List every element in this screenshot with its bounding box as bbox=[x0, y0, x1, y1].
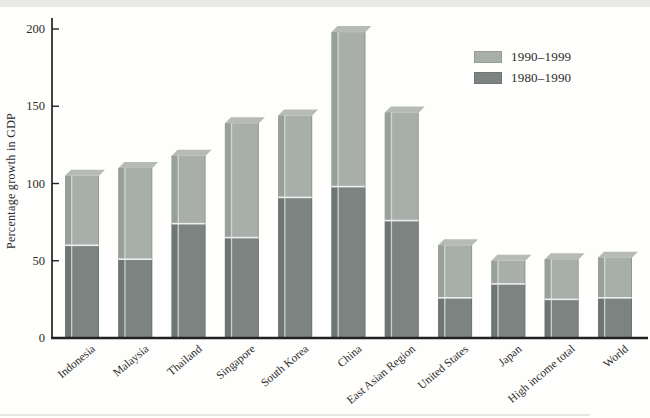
bar-malaysia-top-face bbox=[118, 162, 158, 168]
bar-east-asian-region-segment-separator bbox=[385, 220, 419, 222]
bar-japan-segment-separator bbox=[491, 283, 525, 285]
legend-label-1990-1999: 1990–1999 bbox=[511, 49, 571, 65]
x-tick-label-indonesia: Indonesia bbox=[55, 342, 97, 380]
bar-japan-top-face bbox=[491, 255, 531, 261]
bar-indonesia-side-light bbox=[65, 176, 71, 246]
bar-south-korea-edge-highlight bbox=[284, 116, 285, 338]
bar-world-segment-separator bbox=[598, 297, 632, 299]
bar-singapore-side-dark bbox=[225, 238, 231, 338]
bar-thailand-side-dark bbox=[172, 224, 178, 338]
bar-indonesia-side-dark bbox=[65, 245, 71, 338]
y-tick-label-0: 0 bbox=[39, 331, 45, 345]
bar-china-right-shade bbox=[365, 32, 366, 338]
bar-world-top-face bbox=[598, 252, 638, 258]
bar-east-asian-region-side-light bbox=[385, 112, 391, 220]
bar-china-side-light bbox=[332, 32, 338, 187]
bar-high-income-total-side-light bbox=[545, 259, 551, 299]
bar-singapore-side-light bbox=[225, 123, 231, 237]
bar-east-asian-region-edge-highlight bbox=[391, 112, 392, 338]
x-tick-label-south-korea: South Korea bbox=[258, 342, 310, 388]
bar-japan-side-light bbox=[491, 261, 497, 284]
legend-item-1980-1990: 1980–1990 bbox=[474, 70, 571, 86]
bar-japan-right-shade bbox=[524, 261, 525, 338]
bar-japan-edge-highlight bbox=[497, 261, 498, 338]
bar-malaysia-edge-highlight bbox=[124, 168, 125, 338]
x-tick-label-singapore: Singapore bbox=[214, 342, 258, 382]
legend-label-1980-1990: 1980–1990 bbox=[511, 70, 571, 86]
bar-thailand-right-shade bbox=[205, 156, 206, 338]
y-tick-label-50: 50 bbox=[33, 254, 46, 268]
bar-malaysia-segment-separator bbox=[118, 258, 152, 260]
y-tick-label-100: 100 bbox=[26, 177, 45, 191]
bar-high-income-total-top-face bbox=[545, 253, 585, 259]
bar-thailand-segment-separator bbox=[172, 223, 206, 225]
bar-malaysia-right-shade bbox=[151, 168, 152, 338]
bar-united-states-edge-highlight bbox=[444, 245, 445, 338]
bar-south-korea-side-light bbox=[278, 116, 284, 198]
bar-south-korea-top-face bbox=[278, 110, 318, 116]
bar-east-asian-region-right-shade bbox=[418, 112, 419, 338]
bar-singapore-edge-highlight bbox=[231, 123, 232, 338]
bar-south-korea-side-dark bbox=[278, 197, 284, 338]
bar-world-side-light bbox=[598, 258, 604, 298]
legend-swatch-1990-1999 bbox=[474, 51, 502, 63]
bar-united-states-top-face bbox=[438, 239, 478, 245]
x-tick-label-japan: Japan bbox=[496, 342, 525, 369]
bar-united-states-segment-separator bbox=[438, 297, 472, 299]
x-tick-label-world: World bbox=[601, 342, 631, 370]
bar-china-edge-highlight bbox=[338, 32, 339, 338]
bar-malaysia-side-light bbox=[118, 168, 124, 259]
bar-high-income-total-right-shade bbox=[578, 259, 579, 338]
bar-china-segment-separator bbox=[332, 186, 366, 188]
bar-singapore-segment-separator bbox=[225, 237, 259, 239]
bar-united-states-side-dark bbox=[438, 298, 444, 338]
bar-world-right-shade bbox=[631, 258, 632, 338]
bar-malaysia-side-dark bbox=[118, 259, 124, 338]
y-axis-title: Percentage growth in GDP bbox=[4, 113, 18, 249]
y-tick-label-150: 150 bbox=[26, 99, 45, 113]
bar-thailand-top-face bbox=[172, 150, 212, 156]
bar-united-states-side-light bbox=[438, 245, 444, 298]
y-tick-label-200: 200 bbox=[26, 22, 45, 36]
legend-swatch-1980-1990 bbox=[474, 72, 502, 84]
bar-high-income-total-side-dark bbox=[545, 299, 551, 338]
x-tick-label-malaysia: Malaysia bbox=[111, 342, 152, 379]
bar-united-states-right-shade bbox=[471, 245, 472, 338]
page-scan-edge-bottom bbox=[0, 414, 590, 416]
bar-high-income-total-segment-separator bbox=[545, 299, 579, 301]
bar-thailand-side-light bbox=[172, 156, 178, 224]
bar-indonesia-segment-separator bbox=[65, 245, 99, 247]
bar-east-asian-region-top-face bbox=[385, 106, 425, 112]
bar-china-side-dark bbox=[332, 187, 338, 338]
bar-singapore-right-shade bbox=[258, 123, 259, 338]
legend: 1990–1999 1980–1990 bbox=[474, 49, 571, 86]
bar-japan-side-dark bbox=[491, 284, 497, 338]
bar-south-korea-segment-separator bbox=[278, 197, 312, 199]
bar-indonesia-edge-highlight bbox=[71, 176, 72, 338]
x-tick-label-thailand: Thailand bbox=[165, 342, 204, 378]
bar-thailand-edge-highlight bbox=[178, 156, 179, 338]
bar-south-korea-right-shade bbox=[311, 116, 312, 338]
bar-indonesia-top-face bbox=[65, 170, 105, 176]
scanned-figure-page: Percentage growth in GDP IndonesiaMalays… bbox=[0, 0, 650, 418]
bar-singapore-top-face bbox=[225, 117, 265, 123]
bar-east-asian-region-side-dark bbox=[385, 221, 391, 338]
bar-china-top-face bbox=[332, 26, 372, 32]
legend-item-1990-1999: 1990–1999 bbox=[474, 49, 571, 65]
x-tick-label-united-states: United States bbox=[415, 342, 470, 391]
bar-world-side-dark bbox=[598, 298, 604, 338]
bar-indonesia-right-shade bbox=[98, 176, 99, 338]
x-tick-label-china: China bbox=[335, 342, 364, 369]
